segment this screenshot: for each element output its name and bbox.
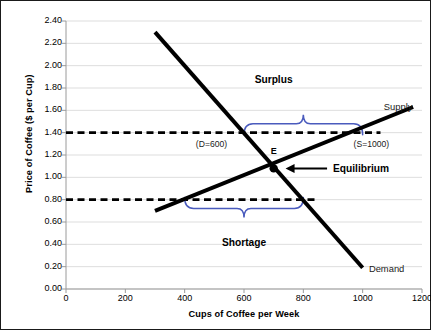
y-axis-tick: 1.20 [26,150,62,159]
y-axis-tick: 1.60 [26,105,62,114]
y-axis-tick-labels: 0.000.200.400.600.801.001.201.401.601.80… [21,21,62,289]
x-axis-tick: 400 [165,294,205,303]
equilibrium-label: Equilibrium [333,164,389,174]
y-axis-tick: 2.20 [26,38,62,47]
y-axis-tick: 0.60 [26,217,62,226]
equilibrium-marker [269,164,277,172]
plot-svg [66,21,422,289]
gridlines [66,21,422,289]
plot-area: Surplus Shortage Equilibrium E (D=600) (… [66,21,422,289]
shortage-label: Shortage [222,238,266,248]
x-axis-tick: 0 [46,294,86,303]
axis-lines [62,21,422,293]
y-axis-tick: 1.40 [26,128,62,137]
supply-demand-chart: Price of Coffee ($ per Cup) 0.000.200.40… [0,0,431,330]
y-axis-tick: 1.00 [26,172,62,181]
equilibrium-point-label: E [271,147,277,156]
supply-quantity-label: (S=1000) [354,140,390,149]
x-axis-tick: 1000 [343,294,383,303]
x-axis-tick: 200 [105,294,145,303]
x-axis-tick: 800 [283,294,323,303]
demand-series-label: Demand [369,264,404,273]
curve-series [155,32,413,268]
y-axis-tick: 2.00 [26,61,62,70]
x-axis-tick: 1200 [402,294,431,303]
y-axis-tick: 0.00 [26,284,62,293]
y-axis-tick: 0.40 [26,239,62,248]
x-axis-tick-labels: 020040060080010001200 [66,294,422,308]
supply-series-label: Supply [384,102,413,111]
surplus-label: Surplus [255,75,293,85]
demand-quantity-label: (D=600) [196,140,227,149]
x-axis-tick: 600 [224,294,264,303]
y-axis-tick: 1.80 [26,83,62,92]
x-axis-title: Cups of Coffee per Week [66,309,422,319]
y-axis-tick: 2.40 [26,16,62,25]
y-axis-tick: 0.20 [26,262,62,271]
y-axis-tick: 0.80 [26,195,62,204]
equilibrium-arrow [286,164,328,173]
